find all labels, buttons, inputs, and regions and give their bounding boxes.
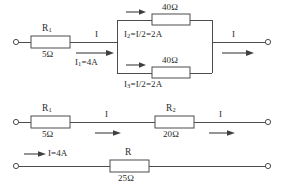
label-current-in-row3: I=4A [48, 149, 67, 158]
terminal-right-row1 [265, 39, 270, 44]
label-current-i3: I3=I/2=2A [124, 80, 162, 90]
current-arrow-mid-row2 [95, 130, 121, 136]
resistor-r1-row1 [31, 36, 70, 48]
current-arrow-i1 [76, 50, 114, 56]
label-r1-value-row1: 5Ω [42, 50, 53, 59]
resistor-r2-row2 [155, 116, 194, 128]
label-r1-value-row2: 5Ω [42, 130, 53, 139]
terminal-left-row1 [13, 39, 18, 44]
terminal-right-row2 [265, 119, 270, 124]
terminal-left-row3 [13, 163, 18, 168]
current-arrow-i2 [126, 9, 146, 15]
label-current-out-row1: I [232, 30, 235, 39]
label-40ohm-top: 40Ω [162, 3, 178, 12]
label-r-row3: R [125, 148, 131, 158]
label-r-value-row3: 25Ω [118, 174, 134, 183]
resistor-r1-row2 [31, 116, 70, 128]
circuit-diagram: R1 5Ω I I1=4A 40Ω I2=I/2=2A 40Ω I3=I/2=2… [0, 0, 284, 190]
label-current-i-row1: I [95, 30, 98, 39]
resistor-40ohm-bottom [152, 67, 190, 78]
label-r1-row2: R1 [42, 104, 52, 114]
terminal-left-row2 [13, 119, 18, 124]
label-r2-value-row2: 20Ω [163, 130, 179, 139]
label-current-i2: I2=I/2=2A [124, 30, 162, 40]
terminal-right-row3 [265, 163, 270, 168]
label-current-mid-row2: I [105, 110, 108, 119]
label-current-i1-row1: I1=4A [75, 58, 98, 68]
current-arrow-i3 [126, 62, 146, 68]
label-40ohm-bottom: 40Ω [162, 56, 178, 65]
current-arrow-iout-row1 [222, 50, 254, 56]
label-current-out-row2: I [219, 110, 222, 119]
label-r1-row1: R1 [42, 24, 52, 34]
resistor-r-row3 [110, 160, 149, 172]
label-r2-row2: R2 [166, 104, 176, 114]
resistor-40ohm-top [152, 14, 190, 25]
current-arrow-in-row3 [24, 151, 46, 157]
current-arrow-out-row2 [209, 130, 235, 136]
